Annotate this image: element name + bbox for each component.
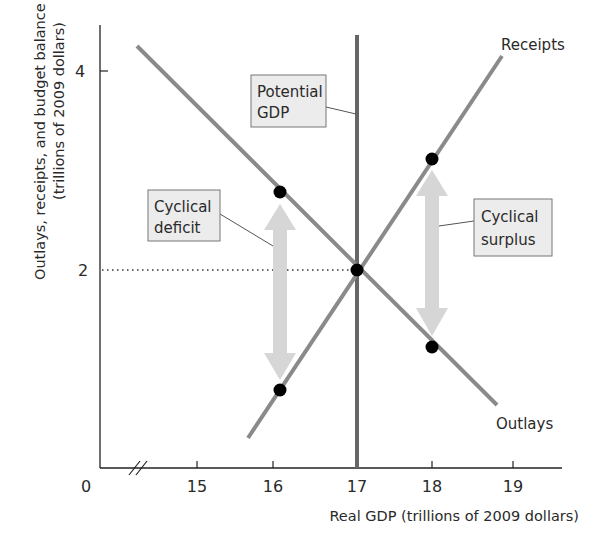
x-tick-label-16: 16 <box>263 477 283 496</box>
x-tick-label-15: 15 <box>187 477 207 496</box>
cyclical-deficit-label-line2: deficit <box>154 219 201 237</box>
y-tick-label-2: 2 <box>78 261 88 280</box>
x-tick-label-18: 18 <box>422 477 442 496</box>
chart: 4 2 0 15 16 17 18 19 Real GDP (trillions… <box>0 0 603 545</box>
cyclical-surplus-arrow <box>416 170 448 336</box>
x-tick-label-17: 17 <box>347 477 367 496</box>
x-axis-title: Real GDP (trillions of 2009 dollars) <box>329 508 579 524</box>
point-outlays-18 <box>426 341 439 354</box>
y-axis-title-line1: Outlays, receipts, and budget balance <box>32 3 48 280</box>
point-equilibrium-17 <box>351 264 364 277</box>
potential-gdp-label-line2: GDP <box>257 104 289 122</box>
point-receipts-16 <box>274 384 287 397</box>
cyclical-surplus-annotation: Cyclical surplus <box>439 199 552 256</box>
cyclical-surplus-label-line2: surplus <box>481 231 536 249</box>
x-tick-label-19: 19 <box>503 477 523 496</box>
y-tick-label-4: 4 <box>75 62 85 81</box>
potential-gdp-label-line1: Potential <box>257 83 323 101</box>
point-outlays-16 <box>274 186 287 199</box>
y-axis-title-line2: (trillions of 2009 dollars) <box>51 22 67 200</box>
origin-label: 0 <box>81 477 91 496</box>
outlays-label: Outlays <box>496 415 553 433</box>
cyclical-deficit-label-line1: Cyclical <box>154 198 212 216</box>
cyclical-surplus-label-line1: Cyclical <box>481 208 539 226</box>
cyclical-deficit-annotation: Cyclical deficit <box>148 190 273 246</box>
receipts-label: Receipts <box>501 36 565 54</box>
point-receipts-18 <box>426 153 439 166</box>
potential-gdp-annotation: Potential GDP <box>251 75 356 127</box>
cyclical-deficit-arrow <box>264 204 296 380</box>
